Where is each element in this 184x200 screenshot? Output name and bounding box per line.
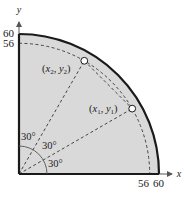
point-2-marker — [81, 57, 88, 64]
x-tick-56: 56 — [138, 177, 150, 189]
point-1-marker — [129, 105, 136, 112]
x-axis-label: x — [176, 168, 182, 179]
angle-label-bottom: 30° — [48, 158, 63, 169]
angle-label-middle: 30° — [42, 140, 57, 151]
angle-label-top: 30° — [21, 131, 36, 142]
x-tick-60: 60 — [153, 177, 165, 189]
y-tick-56: 56 — [3, 37, 15, 49]
quarter-circle-diagram: y x 60 56 56 60 (x2, y2) (x1, y1) 30° 30… — [0, 0, 184, 200]
y-axis-label: y — [16, 4, 22, 15]
